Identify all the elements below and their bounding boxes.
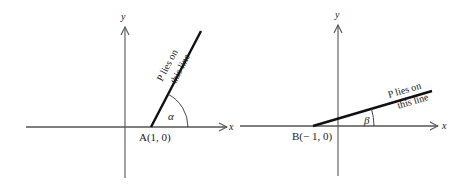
point-b-label: B(− 1, 0) (292, 130, 332, 143)
x-axis-label: x (228, 121, 234, 132)
figure-right: x y β B(− 1, 0) P lies on this line (240, 9, 447, 176)
figure-left: x y α A(1, 0) P lies on this line (26, 11, 234, 178)
y-axis-label: y (120, 11, 126, 22)
point-a-label: A(1, 0) (139, 131, 171, 144)
y-axis-label: y (334, 9, 340, 20)
angle-beta-arc (372, 109, 375, 126)
angle-alpha-label: α (168, 110, 174, 122)
diagram-canvas: x y α A(1, 0) P lies on this line x y β … (0, 0, 468, 191)
x-axis-label: x (441, 120, 447, 131)
angle-beta-label: β (363, 114, 370, 126)
